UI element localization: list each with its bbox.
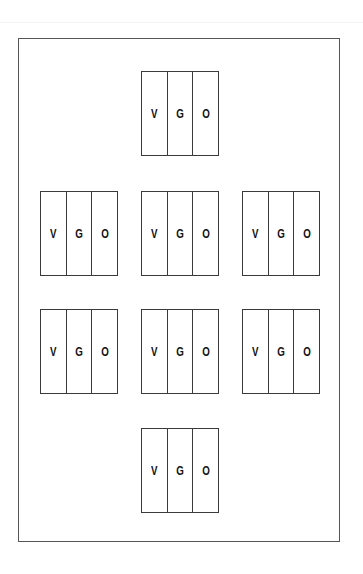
cell-g: G (67, 192, 93, 275)
vgo-block-row3-center: V G O (141, 309, 219, 394)
cell-v: V (41, 310, 67, 393)
cell-v: V (142, 310, 168, 393)
vgo-block-row2-center: V G O (141, 191, 219, 276)
cell-v: V (142, 192, 168, 275)
vgo-block-row3-left: V G O (40, 309, 118, 394)
cell-g: G (168, 72, 194, 155)
vgo-block-row2-left: V G O (40, 191, 118, 276)
cell-o: O (294, 192, 319, 275)
vgo-block-top-center: V G O (141, 71, 219, 156)
cell-o: O (92, 192, 117, 275)
cell-o: O (193, 310, 218, 393)
cell-v: V (142, 72, 168, 155)
vgo-block-row2-right: V G O (242, 191, 320, 276)
vgo-block-row3-right: V G O (242, 309, 320, 394)
cell-v: V (243, 192, 269, 275)
cell-g: G (168, 429, 194, 512)
cell-v: V (243, 310, 269, 393)
cell-g: G (168, 192, 194, 275)
cell-v: V (142, 429, 168, 512)
cell-v: V (41, 192, 67, 275)
cell-o: O (193, 192, 218, 275)
cell-o: O (294, 310, 319, 393)
cell-g: G (67, 310, 93, 393)
cell-o: O (193, 72, 218, 155)
cell-g: G (269, 310, 295, 393)
cell-g: G (269, 192, 295, 275)
vgo-block-bottom-center: V G O (141, 428, 219, 513)
cell-o: O (92, 310, 117, 393)
cell-g: G (168, 310, 194, 393)
top-divider-line (0, 22, 363, 23)
cell-o: O (193, 429, 218, 512)
